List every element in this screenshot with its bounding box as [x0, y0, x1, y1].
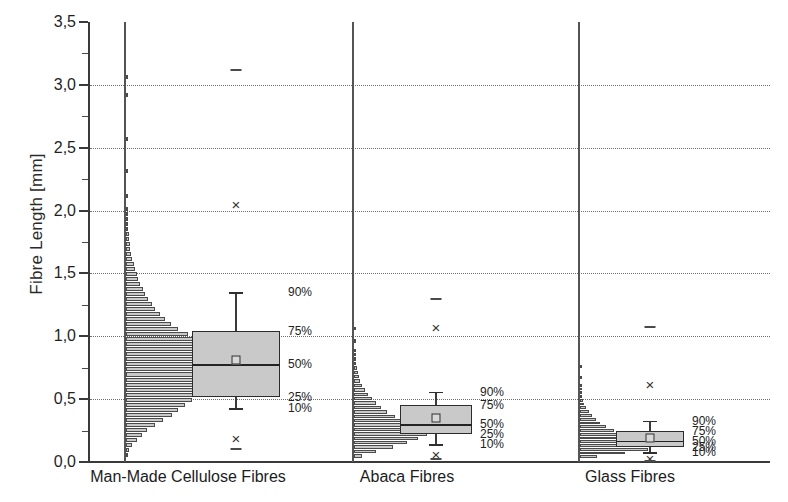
- histogram-bar: [580, 376, 582, 379]
- y-axis-title: Fibre Length [mm]: [27, 99, 47, 349]
- histogram-bar: [580, 422, 601, 425]
- histogram-bar: [580, 395, 583, 398]
- y-tick-major: [79, 272, 88, 274]
- histogram-bar: [580, 418, 596, 421]
- x-axis-category-label: Abaca Fibres: [360, 468, 454, 486]
- outlier-marker-low: ×: [646, 451, 655, 466]
- histogram-bar: [580, 384, 582, 387]
- histogram-bar: [580, 399, 584, 402]
- y-tick-major: [79, 335, 88, 337]
- figure-boxplot-histogram: Fibre Length [mm] 0,00,51,01,52,02,53,03…: [0, 0, 788, 502]
- histogram-bar: [580, 365, 582, 368]
- histogram-bar: [580, 425, 607, 428]
- y-tick-label: 0,5: [54, 390, 76, 408]
- histogram-bar: [580, 414, 592, 417]
- histogram-bar: [580, 452, 626, 455]
- mean-marker: [646, 434, 655, 443]
- histogram-bar: [580, 429, 614, 432]
- extreme-marker-high: [645, 326, 656, 328]
- extreme-marker-low: [645, 460, 656, 462]
- histogram-bar: [580, 448, 648, 451]
- y-tick-major: [79, 84, 88, 86]
- y-tick-label: 1,5: [54, 264, 76, 282]
- histogram-bar: [580, 410, 590, 413]
- percentile-label: 10%: [692, 445, 716, 459]
- plot-area: 0,00,51,01,52,02,53,03,5 ××90%75%50%25%1…: [88, 22, 770, 462]
- y-tick-label: 3,0: [54, 76, 76, 94]
- histogram-bar: [580, 455, 597, 458]
- x-axis-category-label: Glass Fibres: [585, 468, 675, 486]
- y-tick-label: 2,5: [54, 139, 76, 157]
- histogram-bar: [580, 391, 582, 394]
- whisker-cap-upper: [643, 421, 657, 423]
- histogram-bar: [580, 388, 582, 391]
- y-tick-major: [79, 21, 88, 23]
- y-tick-label: 3,5: [54, 13, 76, 31]
- y-tick-major: [79, 147, 88, 149]
- x-axis-category-label: Man-Made Cellulose Fibres: [90, 468, 286, 486]
- histogram-bar: [580, 403, 585, 406]
- outlier-marker-high: ×: [646, 377, 655, 392]
- y-tick-major: [79, 398, 88, 400]
- y-tick-major: [79, 210, 88, 212]
- group-panel: ××90%75%50%25%10%: [88, 22, 770, 462]
- y-tick-label: 0,0: [54, 453, 76, 471]
- y-tick-label: 2,0: [54, 202, 76, 220]
- y-tick-label: 1,0: [54, 327, 76, 345]
- y-tick-major: [79, 461, 88, 463]
- histogram-bar: [580, 406, 587, 409]
